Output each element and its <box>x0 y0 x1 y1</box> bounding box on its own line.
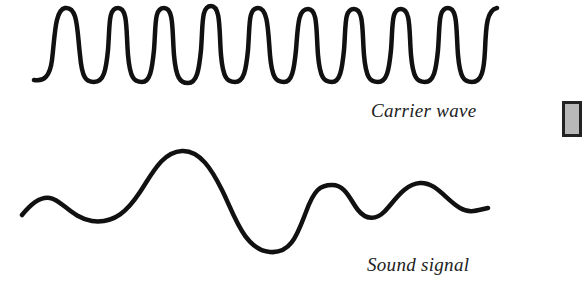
edge-box <box>562 101 582 137</box>
carrier-wave-label: Carrier wave <box>371 100 476 122</box>
sound-signal-path <box>22 151 488 252</box>
sound-signal-label: Sound signal <box>367 254 469 276</box>
carrier-wave-path <box>34 6 497 83</box>
